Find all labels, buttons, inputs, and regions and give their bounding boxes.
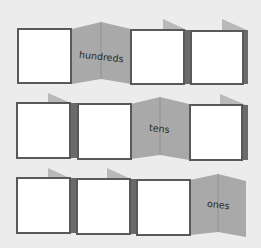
row-hundreds: hundreds <box>18 19 248 84</box>
place-box <box>190 105 242 160</box>
place-box <box>131 30 184 84</box>
fold-tab <box>107 168 131 179</box>
place-box <box>137 180 190 235</box>
side-strip <box>71 103 77 158</box>
place-box <box>78 104 131 159</box>
fold-tab <box>163 19 187 30</box>
fold-tab <box>222 19 247 30</box>
place-box <box>77 179 130 234</box>
place-value-diagram: hundreds tens ones <box>0 0 261 248</box>
row-tens: tens <box>17 93 248 160</box>
place-box <box>191 31 243 84</box>
fold-tab <box>220 94 246 105</box>
place-label-tens: tens <box>149 122 171 135</box>
row-ones: ones <box>17 168 246 237</box>
place-box <box>18 29 71 83</box>
place-box <box>17 103 70 158</box>
place-box <box>17 178 70 233</box>
